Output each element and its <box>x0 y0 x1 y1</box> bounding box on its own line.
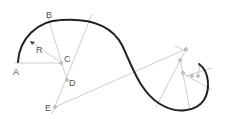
label-e: E <box>45 103 51 113</box>
main-curve <box>18 20 208 111</box>
line-right-2 <box>180 58 190 110</box>
line-e-through-d <box>52 14 92 114</box>
point-right-2 <box>179 59 182 62</box>
label-r: R <box>36 45 43 55</box>
radius-arrow-icon <box>30 41 35 45</box>
point-d <box>66 79 69 82</box>
label-d: D <box>69 78 76 88</box>
line-right-1 <box>156 49 186 107</box>
construction-diagram: A B C D E R <box>0 0 225 119</box>
point-e <box>54 106 57 109</box>
construction-lines <box>14 14 212 114</box>
point-right-1 <box>185 48 188 51</box>
label-b: B <box>46 10 52 20</box>
point-right-3 <box>182 72 185 75</box>
point-right-5 <box>197 75 200 78</box>
point-c <box>60 62 63 65</box>
point-right-4 <box>191 75 194 78</box>
label-c: C <box>64 54 71 64</box>
label-a: A <box>13 67 19 77</box>
